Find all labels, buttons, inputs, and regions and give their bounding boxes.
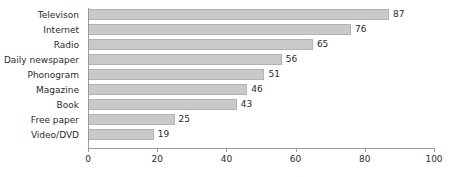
- x-axis-tick: [434, 148, 435, 152]
- bar-value-label: 56: [286, 53, 297, 65]
- bar-row: 87: [88, 9, 434, 24]
- category-label: Phonogram: [0, 69, 84, 84]
- y-axis-line: [88, 8, 89, 148]
- plot-area: 87 76 65 56 51 46 43 25: [88, 9, 434, 144]
- bar: [88, 9, 389, 20]
- bar: [88, 129, 154, 140]
- category-axis-labels: Televison Internet Radio Daily newspaper…: [0, 9, 84, 144]
- bar-row: 25: [88, 114, 434, 129]
- x-axis-tick: [226, 148, 227, 152]
- bar-value-label: 76: [355, 23, 366, 35]
- category-label: Video/DVD: [0, 129, 84, 144]
- bar-value-label: 51: [268, 68, 279, 80]
- bar: [88, 114, 175, 125]
- x-axis-tick-label: 100: [425, 154, 442, 165]
- bar-row: 56: [88, 54, 434, 69]
- bar-row: 76: [88, 24, 434, 39]
- bar-chart: Televison Internet Radio Daily newspaper…: [0, 0, 454, 177]
- bar-row: 46: [88, 84, 434, 99]
- x-axis-tick: [365, 148, 366, 152]
- category-label: Magazine: [0, 84, 84, 99]
- x-axis-tick-label: 20: [151, 154, 162, 165]
- bar-row: 65: [88, 39, 434, 54]
- category-label: Free paper: [0, 114, 84, 129]
- category-label: Daily newspaper: [0, 54, 84, 69]
- bar: [88, 84, 247, 95]
- bar-value-label: 19: [158, 128, 169, 140]
- x-axis-tick-label: 0: [85, 154, 91, 165]
- bar: [88, 99, 237, 110]
- bar-value-label: 65: [317, 38, 328, 50]
- bar: [88, 24, 351, 35]
- bar: [88, 39, 313, 50]
- bar-row: 19: [88, 129, 434, 144]
- category-label: Radio: [0, 39, 84, 54]
- x-axis-tick-label: 60: [290, 154, 301, 165]
- category-label: Internet: [0, 24, 84, 39]
- bar-value-label: 43: [241, 98, 252, 110]
- x-axis-tick-label: 80: [359, 154, 370, 165]
- x-axis-tick-label: 40: [221, 154, 232, 165]
- bar-value-label: 87: [393, 8, 404, 20]
- category-label: Televison: [0, 9, 84, 24]
- x-axis-tick: [296, 148, 297, 152]
- bar-row: 51: [88, 69, 434, 84]
- category-label: Book: [0, 99, 84, 114]
- x-axis-line: [88, 148, 435, 149]
- bar-value-label: 25: [179, 113, 190, 125]
- x-axis-tick: [88, 148, 89, 152]
- bar-row: 43: [88, 99, 434, 114]
- x-axis-tick: [157, 148, 158, 152]
- bar-value-label: 46: [251, 83, 262, 95]
- bar: [88, 54, 282, 65]
- bar: [88, 69, 264, 80]
